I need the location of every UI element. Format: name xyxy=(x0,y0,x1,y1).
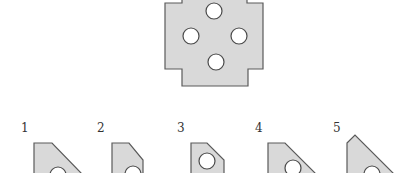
hole-right xyxy=(231,28,247,44)
hole-top xyxy=(206,3,222,19)
option-label: 4 xyxy=(255,121,263,135)
puzzle-figure: 1 2 3 4 5 xyxy=(0,0,419,173)
option-4[interactable]: 4 xyxy=(255,121,316,173)
option-3[interactable]: 3 xyxy=(177,121,224,173)
hole-left xyxy=(183,28,199,44)
reference-shape xyxy=(165,0,263,86)
option-label: 1 xyxy=(21,121,29,135)
option-5[interactable]: 5 xyxy=(333,121,394,173)
option-hole xyxy=(285,160,301,173)
hole-bottom xyxy=(208,54,224,70)
option-1[interactable]: 1 xyxy=(21,121,82,173)
option-label: 5 xyxy=(333,121,341,135)
option-hole xyxy=(199,153,215,169)
option-2[interactable]: 2 xyxy=(97,121,143,173)
option-label: 3 xyxy=(177,121,185,135)
option-label: 2 xyxy=(97,121,105,135)
